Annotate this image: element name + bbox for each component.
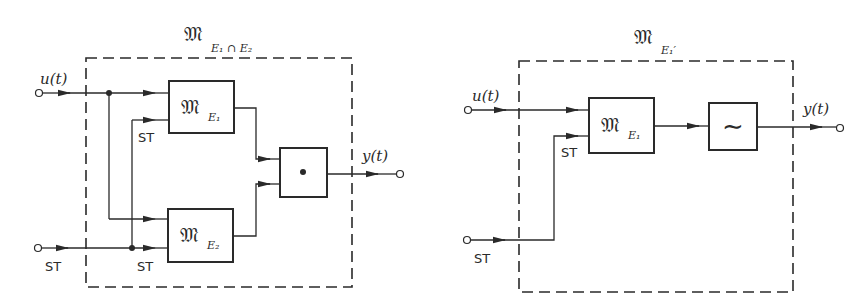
right-input-st-terminal [464, 237, 471, 244]
left-block-e2-subscript: E₂ [206, 239, 219, 252]
left-inner-st-label-bottom: ST [137, 259, 153, 274]
left-block-e1 [169, 81, 234, 133]
left-block-e1-subscript: E₁ [207, 111, 220, 124]
block-diagrams: 𝔐 E₁ ∩ E₂ u(t) ST ST ST 𝔐 E₁ 𝔐 [0, 0, 867, 308]
left-block-e2 [168, 209, 233, 262]
left-title-subscript: E₁ ∩ E₂ [210, 42, 252, 55]
right-system-boundary [519, 61, 793, 292]
right-input-u-label: u(t) [472, 87, 500, 105]
right-output-terminal [837, 125, 844, 132]
right-tilde-icon: ∼ [722, 111, 744, 141]
right-title-subscript: E₁′ [660, 44, 676, 57]
left-output-terminal [397, 171, 404, 178]
left-block-e1-symbol: 𝔐 [181, 95, 199, 119]
left-title-symbol: 𝔐 [184, 22, 202, 46]
right-input-st-label: ST [474, 251, 490, 266]
right-block-e1 [589, 98, 654, 153]
left-input-st-terminal [35, 245, 42, 252]
left-input-st-label: ST [45, 259, 61, 274]
left-block-e2-symbol: 𝔐 [180, 223, 198, 247]
left-input-u-label: u(t) [40, 70, 68, 88]
right-block-e1-subscript: E₁ [627, 129, 640, 142]
right-title-symbol: 𝔐 [634, 25, 652, 49]
left-input-u-terminal [36, 90, 43, 97]
left-output-label: y(t) [361, 147, 388, 165]
right-block-e1-symbol: 𝔐 [601, 113, 619, 137]
right-inner-st-label: ST [561, 145, 577, 160]
left-inner-st-label-top: ST [138, 130, 154, 145]
left-diagram-intersection: 𝔐 E₁ ∩ E₂ u(t) ST ST ST 𝔐 E₁ 𝔐 [35, 22, 404, 287]
left-multiply-dot-icon [300, 169, 306, 175]
right-input-u-terminal [465, 107, 472, 114]
right-output-label: y(t) [802, 100, 829, 118]
right-diagram-complement: 𝔐 E₁′ u(t) ST ST 𝔐 E₁ ∼ y(t) [464, 25, 844, 292]
